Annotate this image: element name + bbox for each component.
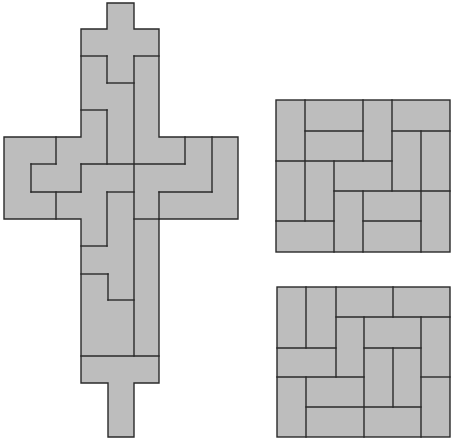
upper-square-figure xyxy=(276,100,450,252)
lower-square-figure xyxy=(277,287,450,437)
dissection-diagram xyxy=(0,0,457,445)
cross-figure xyxy=(4,3,238,437)
diagram-stage xyxy=(0,0,457,445)
cross-outline xyxy=(4,3,238,437)
